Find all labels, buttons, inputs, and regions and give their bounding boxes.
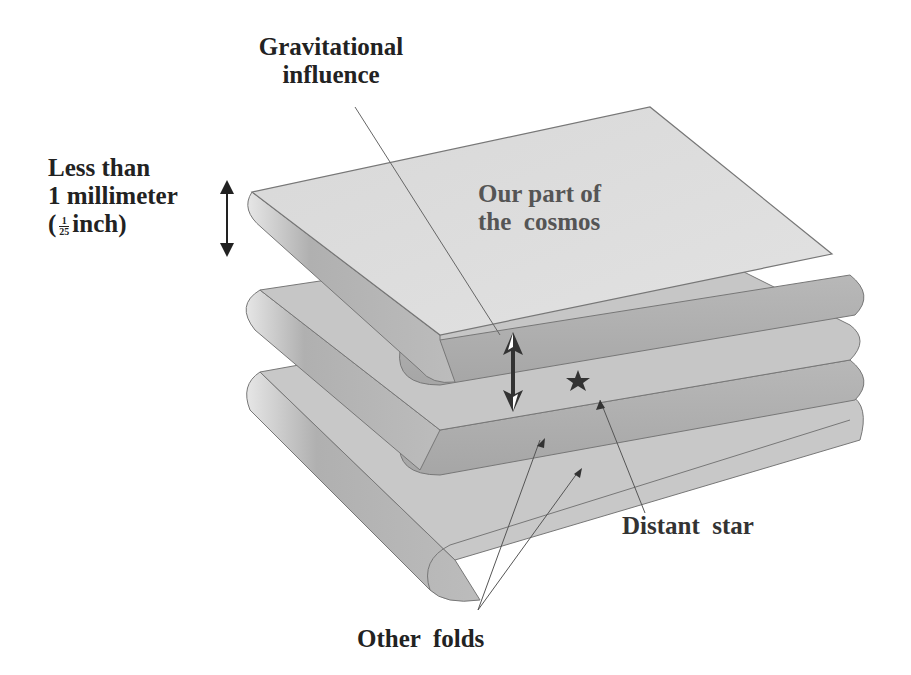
our-part-line2: the cosmos [478,208,601,236]
fraction-denominator: 25 [59,227,69,237]
gravitational-label-line1: Gravitational [236,33,426,61]
gravitational-influence-label: Gravitational influence [236,33,426,89]
thickness-label-line1: Less than [48,154,178,182]
thickness-label-line3: (125inch) [48,210,178,238]
distant-star-label: Distant star [622,512,754,540]
folded-universe-diagram: Gravitational influence Less than 1 mill… [0,0,911,675]
thickness-label: Less than 1 millimeter (125inch) [48,154,178,238]
our-part-line1: Our part of [478,180,601,208]
thickness-double-arrow-icon [220,180,234,257]
our-part-of-cosmos-label: Our part of the cosmos [478,180,601,236]
other-folds-label: Other folds [357,625,484,653]
gravitational-label-line2: influence [236,61,426,89]
fraction: 125 [59,216,69,237]
unit-text: inch) [72,210,126,237]
paren-open: ( [48,210,56,237]
thickness-label-line2: 1 millimeter [48,182,178,210]
folded-sheets-illustration [0,0,911,675]
